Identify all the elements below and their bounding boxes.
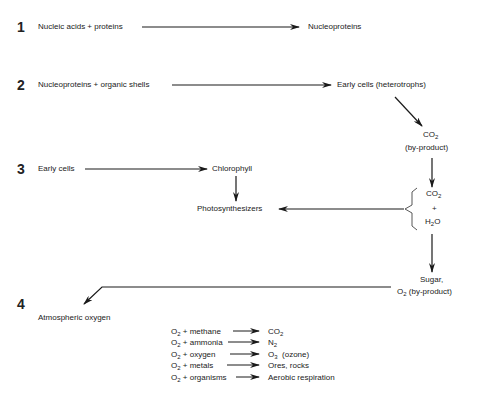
reaction-reactant: O2 + oxygen	[171, 349, 216, 360]
step-number-4: 4	[17, 297, 25, 311]
reaction-reactant: O2 + methane	[171, 326, 221, 337]
reaction-product: N2	[268, 337, 277, 348]
reaction-product: CO2	[268, 326, 283, 337]
step-number-3: 3	[17, 162, 25, 176]
h2o-input: H2O	[425, 217, 440, 227]
arrow-to-co2	[395, 97, 422, 126]
co2-input: CO2	[426, 189, 441, 199]
step1-output: Nucleoproteins	[308, 22, 361, 32]
connector-arrows	[0, 0, 478, 395]
step2-input: Nucleoproteins + organic shells	[38, 80, 149, 90]
plus-sign: +	[432, 204, 437, 214]
co2-label: CO2	[423, 130, 438, 140]
reaction-product: Ores, rocks	[268, 360, 309, 371]
reaction-reactant: O2 + metals	[171, 360, 213, 371]
step-number-1: 1	[17, 20, 25, 34]
step1-input: Nucleic acids + proteins	[38, 22, 123, 32]
reaction-product: O3 (ozone)	[268, 349, 309, 360]
sugar-label: Sugar,	[420, 275, 443, 285]
reaction-product: Aerobic respiration	[268, 372, 335, 383]
o2-byproduct-label: O2 (by-product)	[397, 287, 452, 297]
brace	[405, 188, 417, 230]
step2-output: Early cells (heterotrophs)	[337, 80, 426, 90]
photosynthesizers-label: Photosynthesizers	[197, 204, 262, 214]
co2-byproduct-note: (by-product)	[405, 143, 448, 153]
reaction-reactant: O2 + organisms	[171, 372, 227, 383]
step3-output: Chlorophyll	[212, 164, 252, 174]
atmospheric-oxygen-label: Atmospheric oxygen	[38, 313, 110, 323]
step3-input: Early cells	[38, 164, 74, 174]
arrow-to-atmospheric-oxygen	[84, 287, 391, 304]
reaction-reactant: O2 + ammonia	[171, 337, 223, 348]
step-number-2: 2	[17, 78, 25, 92]
